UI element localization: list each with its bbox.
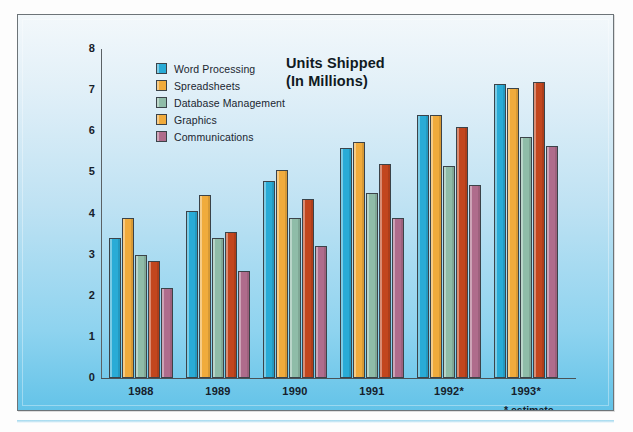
y-axis-tick-label: 6 bbox=[75, 124, 95, 136]
y-axis-tick-label: 0 bbox=[75, 371, 95, 383]
x-axis-tick-labels: 19881989199019911992*1993* bbox=[109, 385, 558, 405]
bar-group bbox=[186, 49, 250, 378]
y-axis-line bbox=[101, 49, 102, 378]
estimate-footnote: * estimate bbox=[504, 404, 554, 411]
bar bbox=[263, 181, 275, 378]
bar-group bbox=[263, 49, 327, 378]
bar-group bbox=[340, 49, 404, 378]
bar bbox=[494, 84, 506, 378]
bar-groups bbox=[109, 49, 571, 378]
bar-group bbox=[494, 49, 558, 378]
y-axis-tick-label: 4 bbox=[75, 207, 95, 219]
x-axis-baseline bbox=[101, 378, 576, 379]
plot-area: 876543210 19881989199019911992*1993* * e… bbox=[101, 49, 581, 411]
x-axis-tick-label: 1993* bbox=[494, 385, 558, 405]
bar bbox=[289, 218, 301, 378]
y-axis-tick-label: 3 bbox=[75, 248, 95, 260]
x-axis-tick-label: 1991 bbox=[340, 385, 404, 405]
bar bbox=[392, 218, 404, 378]
bar bbox=[456, 127, 468, 378]
x-axis-tick-label: 1990 bbox=[263, 385, 327, 405]
bar bbox=[212, 238, 224, 378]
bar bbox=[379, 164, 391, 378]
bar bbox=[366, 193, 378, 378]
bar bbox=[430, 115, 442, 378]
bar bbox=[546, 146, 558, 378]
bar bbox=[315, 246, 327, 378]
bar bbox=[135, 255, 147, 378]
y-axis-tick-label: 8 bbox=[75, 42, 95, 54]
bar bbox=[276, 170, 288, 378]
x-axis-tick-label: 1992* bbox=[417, 385, 481, 405]
bar bbox=[340, 148, 352, 378]
bar bbox=[225, 232, 237, 378]
bar bbox=[417, 115, 429, 378]
bar bbox=[161, 288, 173, 378]
y-axis-tick-label: 1 bbox=[75, 330, 95, 342]
bar bbox=[353, 142, 365, 378]
bar bbox=[469, 185, 481, 378]
footer-divider bbox=[17, 420, 614, 423]
bar bbox=[186, 211, 198, 378]
y-axis-tick-label: 5 bbox=[75, 165, 95, 177]
bar bbox=[122, 218, 134, 378]
x-axis-tick-label: 1988 bbox=[109, 385, 173, 405]
y-axis-tick-label: 2 bbox=[75, 289, 95, 301]
bar bbox=[109, 238, 121, 378]
bar-group bbox=[417, 49, 481, 378]
bar bbox=[533, 82, 545, 378]
y-axis-tick-labels: 876543210 bbox=[75, 49, 95, 378]
bar-group bbox=[109, 49, 173, 378]
bar bbox=[238, 271, 250, 378]
bar bbox=[199, 195, 211, 378]
chart-figure: Units Shipped (In Millions) Word Process… bbox=[0, 0, 633, 432]
bar bbox=[520, 137, 532, 378]
x-axis-tick-label: 1989 bbox=[186, 385, 250, 405]
bar bbox=[148, 261, 160, 378]
bar bbox=[507, 88, 519, 378]
bar bbox=[443, 166, 455, 378]
chart-plate: Units Shipped (In Millions) Word Process… bbox=[17, 14, 614, 411]
y-axis-tick-label: 7 bbox=[75, 83, 95, 95]
bar bbox=[302, 199, 314, 378]
